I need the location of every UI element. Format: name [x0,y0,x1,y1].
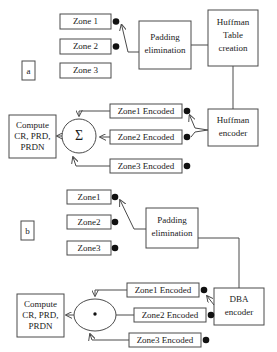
edge-encoded1-to-product-b [95,290,127,296]
zone-box-b-2[interactable]: Zone2 [67,215,118,229]
edge-encoded1-to-sum-a [79,111,110,116]
compute-metrics-b-line2: CR, PRD, [22,310,58,320]
dba-encoder-line2: encoder [225,307,253,317]
encoded-box-b-1-label: Zone1 Encoded [135,285,192,295]
encoded-a-2-terminal-dot [184,134,191,141]
encoded-box-b-2-label: Zone2 Encoded [142,310,199,320]
panel-label-a-text: a [27,66,31,76]
edge-encoder-to-encoded2-a [191,130,208,137]
compute-metrics-block-b[interactable]: Compute CR, PRD, PRDN [17,294,64,337]
huffman-table-creation-line3: creation [219,43,248,53]
encoded-b-2-terminal-dot [208,312,215,319]
huffman-encoder-line1: Huffman [217,115,250,125]
summation-symbol-a: Σ [75,128,83,143]
edge-encoded3-to-product-b [90,334,129,340]
compute-metrics-b-line1: Compute [24,299,57,309]
compute-metrics-a-line3: PRDN [20,142,45,152]
zone-box-a-2-label: Zone 2 [73,41,98,51]
zone-a-1-terminal-dot [113,18,120,25]
encoded-box-a-1[interactable]: Zone1 Encoded [110,104,190,118]
padding-elimination-a-line2: elimination [145,45,186,55]
zone-a-2-terminal-dot [113,43,120,50]
edge-padding-to-zone1-a [122,25,140,53]
encoded-b-1-terminal-dot [201,287,208,294]
edge-encoder-to-encoded1-a [190,115,209,130]
zone-box-b-2-label: Zone2 [78,217,101,227]
compute-metrics-b-line3: PRDN [28,321,53,331]
product-symbol-b [93,312,96,315]
padding-elimination-b-line1: Padding [157,215,187,225]
panel-label-b: b [21,221,34,240]
encoded-b-3-terminal-dot [203,337,210,344]
padding-elimination-block-a[interactable]: Padding elimination [139,21,191,69]
zone-b-1-terminal-dot [112,194,119,201]
huffman-table-creation-block[interactable]: Huffman Table creation [208,10,258,66]
dba-encoder-line1: DBA [229,294,249,304]
encoded-a-1-terminal-dot [184,108,191,115]
edge-dba-to-encoded1-b [207,296,214,305]
zone-b-3-terminal-dot [112,245,119,252]
compute-metrics-block-a[interactable]: Compute CR, PRD, PRDN [9,115,56,158]
compute-metrics-a-line2: CR, PRD, [14,131,50,141]
encoded-box-a-2-label: Zone2 Encoded [118,132,175,142]
panel-label-a: a [22,61,35,80]
encoded-box-a-1-label: Zone1 Encoded [118,106,175,116]
diagram-canvas: a Zone 1 Zone 2 Zone 3 Padding eliminati… [0,0,277,352]
block-diagram: a Zone 1 Zone 2 Zone 3 Padding eliminati… [0,0,277,352]
edge-encoded3-to-sum-a [73,157,110,166]
huffman-encoder-block[interactable]: Huffman encoder [208,109,258,146]
encoded-a-3-terminal-dot [184,163,191,170]
zone-box-b-1-label: Zone1 [78,192,101,202]
huffman-table-creation-line1: Huffman [217,17,250,27]
encoded-box-b-2[interactable]: Zone2 Encoded [134,308,214,322]
encoded-box-a-3[interactable]: Zone3 Encoded [110,159,190,173]
zone-box-a-1[interactable]: Zone 1 [60,14,119,29]
zone-box-b-3-label: Zone3 [78,243,101,253]
edge-padding-to-dba-encoder-b [198,238,239,288]
zone-box-a-1-label: Zone 1 [73,16,98,26]
summation-operator-a: Σ [62,119,96,153]
dba-encoder-block[interactable]: DBA encoder [214,288,264,325]
zone-box-a-3[interactable]: Zone 3 [60,63,111,78]
encoded-box-b-3-label: Zone3 Encoded [137,335,194,345]
product-operator-b [74,299,116,331]
encoded-box-a-3-label: Zone3 Encoded [118,161,175,171]
huffman-encoder-line2: encoder [219,128,247,138]
zone-b-2-terminal-dot [112,219,119,226]
panel-label-b-text: b [25,226,30,236]
huffman-table-creation-line2: Table [223,30,243,40]
padding-elimination-block-b[interactable]: Padding elimination [146,208,198,248]
zone-box-b-3[interactable]: Zone3 [67,241,118,255]
edge-padding-to-zone1-b [120,200,146,229]
zone-box-a-2[interactable]: Zone 2 [60,39,119,54]
encoded-box-a-2[interactable]: Zone2 Encoded [110,130,190,144]
zone-box-b-1[interactable]: Zone1 [67,190,118,204]
padding-elimination-a-line1: Padding [150,32,180,42]
encoded-box-b-3[interactable]: Zone3 Encoded [129,333,209,347]
zone-box-a-3-label: Zone 3 [73,65,99,75]
compute-metrics-a-line1: Compute [16,120,49,130]
padding-elimination-b-line2: elimination [152,228,193,238]
encoded-box-b-1[interactable]: Zone1 Encoded [127,283,207,297]
